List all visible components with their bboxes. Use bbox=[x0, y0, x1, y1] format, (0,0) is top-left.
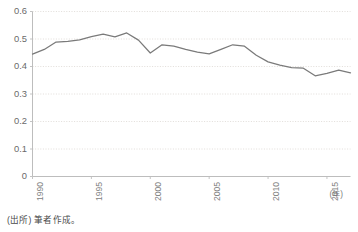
source-note: (出所) 筆者作成。 bbox=[7, 213, 80, 225]
x-axis-tick-label: 2005 bbox=[213, 181, 222, 200]
chart-figure: 0.60.50.40.30.20.10 19901995200020052010… bbox=[0, 0, 358, 232]
line-chart-plot bbox=[0, 0, 358, 232]
x-axis-tick-label: 2000 bbox=[154, 181, 163, 200]
tick-marks-group bbox=[30, 12, 327, 180]
y-axis-tick-label: 0.6 bbox=[3, 6, 27, 16]
y-axis-tick-label: 0.4 bbox=[3, 61, 27, 71]
y-axis-tick-label: 0.5 bbox=[3, 34, 27, 44]
y-axis-tick-label: 0.3 bbox=[3, 89, 27, 99]
x-axis-unit-label: (年) bbox=[330, 187, 343, 199]
x-axis-tick-label: 2010 bbox=[272, 181, 281, 200]
y-axis-tick-label: 0 bbox=[3, 171, 27, 181]
x-axis-tick-label: 1995 bbox=[95, 181, 104, 200]
gridlines-group bbox=[33, 12, 351, 150]
y-axis-tick-label: 0.2 bbox=[3, 116, 27, 126]
y-axis-tick-label: 0.1 bbox=[3, 144, 27, 154]
x-axis-tick-label: 1990 bbox=[36, 181, 45, 200]
